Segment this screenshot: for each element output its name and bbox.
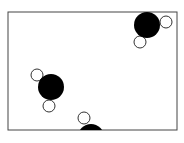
oxygen-atom	[134, 12, 160, 38]
oxygen-atom	[78, 124, 104, 143]
water-molecule	[134, 12, 172, 48]
hydrogen-atom	[134, 36, 146, 48]
water-molecules-diagram	[0, 0, 184, 143]
hydrogen-atom	[43, 100, 55, 112]
hydrogen-atom	[160, 16, 172, 28]
water-molecule	[31, 69, 64, 112]
water-molecule	[78, 112, 104, 143]
oxygen-atom	[38, 74, 64, 100]
hydrogen-atom	[78, 112, 90, 124]
